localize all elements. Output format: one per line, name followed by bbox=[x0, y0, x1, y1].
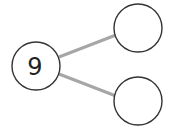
part-circle-top[interactable] bbox=[114, 4, 162, 52]
part-circle-bottom[interactable] bbox=[114, 77, 162, 125]
whole-value: 9 bbox=[27, 53, 42, 81]
connector-line-top bbox=[59, 35, 116, 57]
connector-line-bottom bbox=[59, 74, 116, 96]
number-bond-diagram: 9 bbox=[0, 0, 178, 137]
